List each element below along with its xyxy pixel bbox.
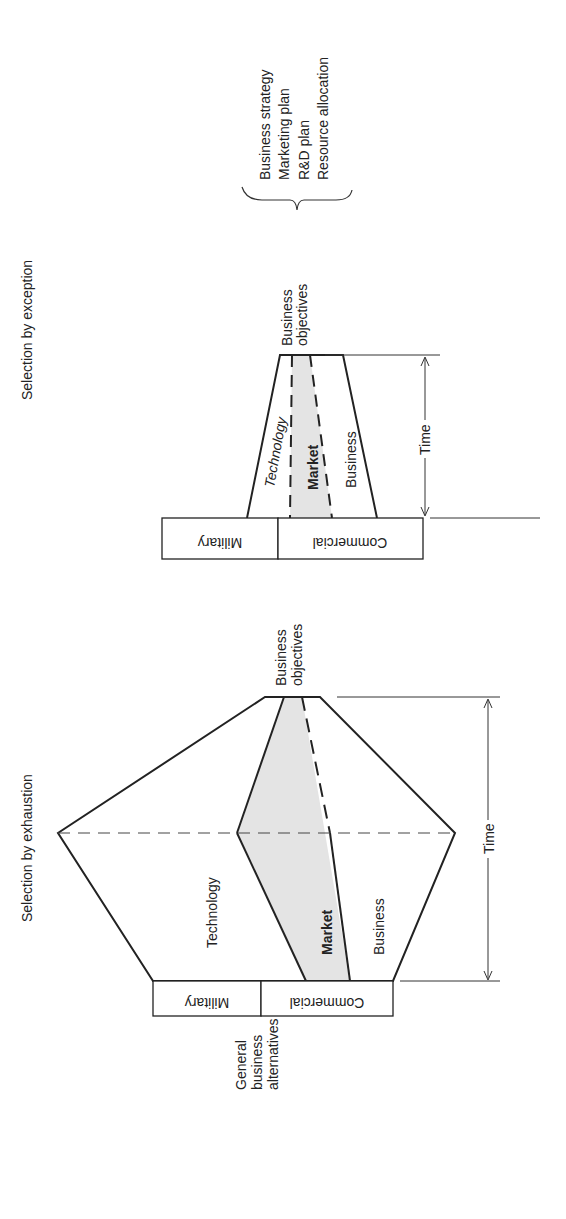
market-band [290, 355, 332, 518]
commercial-label: Commercial [290, 995, 365, 1011]
objectives-label-line1: Business [273, 629, 289, 686]
objectives-label-line1: Business [279, 289, 295, 346]
exception-panel: Selection by exception Technology Market… [19, 57, 540, 559]
region-market: Market [319, 910, 335, 955]
region-market: Market [305, 445, 321, 490]
output-rd-plan: R&D plan [296, 120, 312, 180]
base-label-line3: alternatives [265, 1018, 281, 1090]
time-label: Time [417, 424, 433, 455]
commercial-label: Commercial [313, 535, 388, 551]
time-label: Time [481, 823, 497, 854]
region-technology: Technology [204, 877, 220, 948]
objectives-label-line2: objectives [289, 624, 305, 686]
output-resource-allocation: Resource allocation [315, 57, 331, 180]
military-label: Military [198, 535, 242, 551]
region-business: Business [343, 431, 359, 488]
diagram: Selection by exception Technology Market… [0, 0, 566, 1219]
region-business: Business [371, 898, 387, 955]
exhaustion-panel: Selection by exhaustion Technology Marke… [19, 624, 500, 1090]
exhaustion-title: Selection by exhaustion [19, 774, 35, 922]
brace-icon [242, 187, 352, 210]
military-label: Military [185, 995, 229, 1011]
output-business-strategy: Business strategy [257, 70, 273, 181]
base-label-line1: General [233, 1040, 249, 1090]
objectives-label-line2: objectives [294, 284, 310, 346]
base-label-line2: business [249, 1035, 265, 1090]
exception-title: Selection by exception [19, 260, 35, 400]
output-marketing-plan: Marketing plan [276, 88, 292, 180]
